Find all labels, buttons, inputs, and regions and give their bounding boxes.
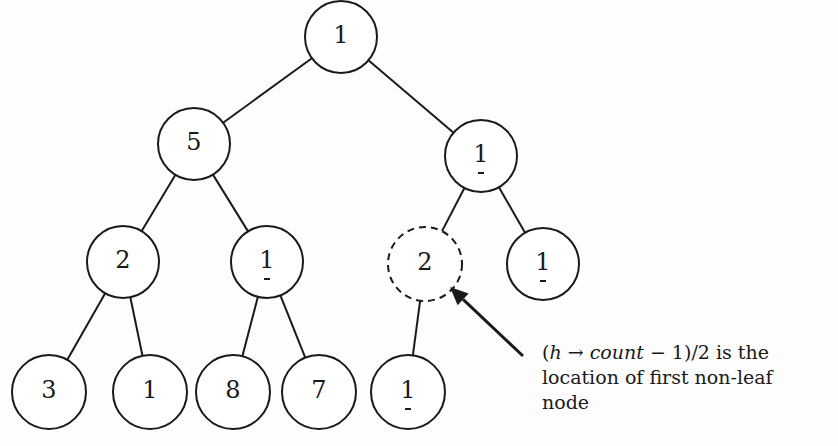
node-value: 5 [186, 128, 201, 156]
node-tick-mark [405, 408, 411, 410]
node-value: 1 [473, 140, 488, 168]
node-value: 1 [400, 376, 415, 404]
node-tick-mark [540, 280, 546, 282]
node-value: 8 [225, 376, 240, 404]
tree-node: 7 [282, 355, 356, 429]
tree-node: 5 [158, 108, 230, 180]
tree-node: 1 [113, 355, 187, 429]
node-value: 1 [259, 246, 274, 274]
tree-edge [442, 188, 464, 231]
arrow-line [463, 299, 523, 356]
annotation-rest: − 1)/2 is the [644, 341, 769, 363]
tree-node: 1 [507, 228, 579, 300]
tree-edge [213, 175, 248, 232]
tree-nodes: 151212131871 [12, 1, 579, 429]
node-value: 3 [41, 376, 56, 404]
tree-edge [368, 60, 453, 132]
node-value: 7 [311, 376, 326, 404]
annotation-var-h: h [549, 341, 561, 363]
annotation-arrow-symbol: → [562, 341, 590, 363]
tree-edge [499, 187, 525, 233]
tree-node: 1 [305, 1, 377, 73]
tree-node-first-non-leaf: 2 [388, 227, 462, 301]
annotation-var-count: count [590, 341, 644, 363]
first-non-leaf-annotation: (h → count − 1)/2 is the location of fir… [542, 340, 838, 415]
tree-edge [130, 297, 142, 356]
tree-edge [142, 175, 176, 231]
tree-node: 8 [196, 355, 270, 429]
annotation-line-2: location of first non-leaf [542, 365, 838, 390]
tree-node: 3 [12, 355, 86, 429]
tree-node: 1 [231, 226, 303, 298]
tree-edge [280, 295, 305, 357]
node-value: 2 [417, 248, 432, 276]
node-value: 1 [333, 21, 348, 49]
pointer-arrow [450, 287, 523, 356]
node-value: 1 [535, 248, 550, 276]
node-tick-mark [264, 278, 270, 280]
node-value: 1 [142, 376, 157, 404]
tree-edge [223, 58, 312, 123]
tree-edge [67, 293, 105, 360]
node-value: 2 [115, 246, 130, 274]
annotation-line-3: node [542, 390, 838, 415]
tree-node: 1 [445, 120, 517, 192]
tree-node: 1 [371, 355, 445, 429]
tree-node: 2 [87, 226, 159, 298]
tree-edge [413, 301, 420, 356]
tree-edge [242, 297, 258, 356]
tree-edges [67, 58, 525, 360]
node-tick-mark [478, 172, 484, 174]
annotation-line-1: (h → count − 1)/2 is the [542, 340, 838, 365]
